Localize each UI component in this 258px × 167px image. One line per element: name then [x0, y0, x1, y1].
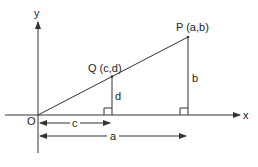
- segment-b-label: b: [192, 72, 198, 84]
- point-q-label: Q (c,d): [88, 62, 122, 74]
- right-angle-marker-p: [180, 108, 188, 115]
- right-angle-marker-q: [104, 108, 112, 115]
- y-axis-label: y: [34, 7, 40, 19]
- point-p-label: P (a,b): [176, 21, 209, 33]
- x-axis-label: x: [243, 109, 249, 121]
- origin-label: O: [27, 115, 36, 127]
- dimension-a-label: a: [110, 130, 117, 142]
- dimension-c-label: c: [72, 117, 78, 129]
- segment-d-label: d: [115, 90, 121, 102]
- similar-triangles-diagram: x y O P (a,b) Q (c,d) b d c a: [0, 0, 258, 167]
